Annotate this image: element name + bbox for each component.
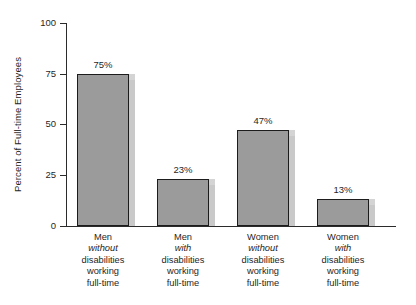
- x-category-label-0-line3: disabilities: [66, 255, 140, 266]
- x-category-label-0-line4: working: [66, 266, 140, 277]
- x-category-label-2-line2: without: [226, 243, 300, 254]
- x-category-label-2-line4: working: [226, 266, 300, 277]
- bar-chart-figure: Percent of Full-time Employees 0 25 50 7…: [0, 0, 416, 305]
- bar-0[interactable]: [77, 74, 129, 226]
- bar-side-shadow-1: [208, 185, 215, 226]
- x-category-label-0: Men without disabilities working full-ti…: [66, 232, 140, 289]
- x-category-label-3-line1: Women: [306, 232, 380, 243]
- bar-top-shade-3: [368, 199, 375, 205]
- bar-value-label-3: 13%: [317, 184, 369, 195]
- bar-top-shade-1: [208, 179, 215, 185]
- bar-side-shadow-3: [368, 205, 375, 226]
- x-category-label-1-line4: working: [146, 266, 220, 277]
- x-category-label-2-line1: Women: [226, 232, 300, 243]
- x-category-label-3-line4: working: [306, 266, 380, 277]
- x-category-label-1-line3: disabilities: [146, 255, 220, 266]
- bar-value-label-2: 47%: [237, 115, 289, 126]
- x-category-label-1: Men with disabilities working full-time: [146, 232, 220, 289]
- x-category-label-3-line2: with: [306, 243, 380, 254]
- x-category-label-3: Women with disabilities working full-tim…: [306, 232, 380, 289]
- x-category-label-1-line2: with: [146, 243, 220, 254]
- bar-top-shade-2: [288, 130, 295, 136]
- x-category-label-2-line5: full-time: [226, 278, 300, 289]
- bar-top-shade-0: [128, 74, 135, 80]
- x-category-label-2-line3: disabilities: [226, 255, 300, 266]
- bar-side-shadow-0: [128, 80, 135, 226]
- x-category-label-1-line5: full-time: [146, 278, 220, 289]
- bar-side-shadow-2: [288, 136, 295, 226]
- x-category-label-3-line5: full-time: [306, 278, 380, 289]
- bar-1[interactable]: [157, 179, 209, 226]
- x-category-label-1-line1: Men: [146, 232, 220, 243]
- x-category-label-0-line2: without: [66, 243, 140, 254]
- bar-3[interactable]: [317, 199, 369, 226]
- bar-value-label-1: 23%: [157, 164, 209, 175]
- bar-2[interactable]: [237, 130, 289, 226]
- bar-value-label-0: 75%: [77, 59, 129, 70]
- x-category-label-2: Women without disabilities working full-…: [226, 232, 300, 289]
- x-category-label-3-line3: disabilities: [306, 255, 380, 266]
- x-category-label-0-line5: full-time: [66, 278, 140, 289]
- x-category-label-0-line1: Men: [66, 232, 140, 243]
